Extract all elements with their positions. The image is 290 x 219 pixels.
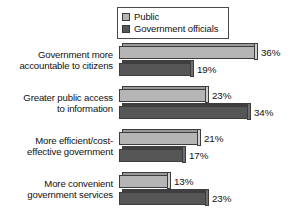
bar-official: 19% xyxy=(119,60,196,77)
bar-value-label: 17% xyxy=(189,149,208,162)
bar-chart: Public Government officials Government m… xyxy=(0,0,290,219)
bar-group: Government moreaccountable to citizens36… xyxy=(0,42,290,78)
bar-public: 13% xyxy=(119,172,173,189)
category-label-line: to information xyxy=(57,103,113,115)
bar-value-label: 19% xyxy=(197,63,216,76)
bar-right-face xyxy=(182,146,186,163)
bar-right-face xyxy=(205,189,209,206)
category-label-line: accountable to citizens xyxy=(19,60,113,72)
bar-group: Greater public accessto information23%34… xyxy=(0,85,290,121)
bar-official: 17% xyxy=(119,146,188,163)
legend-label-government-officials: Government officials xyxy=(134,24,218,34)
bar-body xyxy=(119,106,248,119)
bar-value-label: 21% xyxy=(204,132,223,145)
bar-public: 36% xyxy=(119,43,260,60)
bar-right-face xyxy=(190,60,194,77)
category-label-line: Government more xyxy=(38,49,113,61)
bar-value-label: 36% xyxy=(261,46,280,59)
bar-official: 23% xyxy=(119,189,211,206)
legend-item-government-officials: Government officials xyxy=(122,23,224,34)
bar-body xyxy=(119,46,255,59)
category-label: Government moreaccountable to citizens xyxy=(0,42,113,78)
bar-right-face xyxy=(205,86,209,103)
bar-body xyxy=(119,89,206,102)
category-label-line: government services xyxy=(27,189,113,201)
legend-item-public: Public xyxy=(122,12,224,23)
bar-body xyxy=(119,63,191,76)
bar-right-face xyxy=(247,103,251,120)
chart-legend: Public Government officials xyxy=(117,7,229,39)
bar-official: 34% xyxy=(119,103,253,120)
bar-right-face xyxy=(167,172,171,189)
bar-body xyxy=(119,175,168,188)
bar-value-label: 13% xyxy=(174,175,193,188)
bar-right-face xyxy=(254,43,258,60)
bar-body xyxy=(119,132,198,145)
bar-body xyxy=(119,149,183,162)
bar-group: More efficient/cost-effective government… xyxy=(0,128,290,164)
bar-group: More convenientgovernment services13%23% xyxy=(0,171,290,207)
legend-swatch-public-icon xyxy=(122,13,130,21)
legend-swatch-government-officials-icon xyxy=(122,25,130,33)
bar-public: 21% xyxy=(119,129,203,146)
category-label-line: More convenient xyxy=(44,178,113,190)
category-label-line: More efficient/cost- xyxy=(35,135,113,147)
bar-right-face xyxy=(197,129,201,146)
category-label: More efficient/cost-effective government xyxy=(0,128,113,164)
bar-value-label: 23% xyxy=(212,192,231,205)
category-label: More convenientgovernment services xyxy=(0,171,113,207)
legend-label-public: Public xyxy=(134,12,159,22)
category-label-line: Greater public access xyxy=(23,92,113,104)
chart-plot-area: Government moreaccountable to citizens36… xyxy=(0,42,290,219)
bar-value-label: 23% xyxy=(212,89,231,102)
bar-body xyxy=(119,192,206,205)
bar-public: 23% xyxy=(119,86,211,103)
category-label: Greater public accessto information xyxy=(0,85,113,121)
bar-value-label: 34% xyxy=(254,106,273,119)
category-label-line: effective government xyxy=(27,146,113,158)
